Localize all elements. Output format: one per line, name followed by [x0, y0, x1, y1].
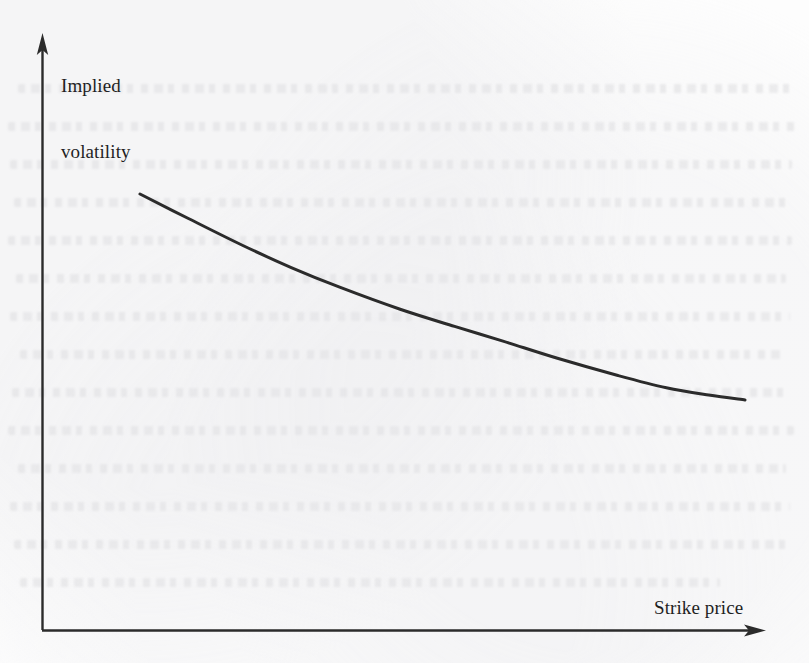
- y-axis-label-line-1: Implied: [61, 75, 131, 97]
- figure-page: Implied volatility Strike price: [0, 0, 809, 663]
- y-axis-label: Implied volatility: [61, 31, 131, 207]
- y-axis-label-line-2: volatility: [61, 141, 131, 163]
- implied-volatility-curve: [140, 194, 745, 400]
- x-axis-label: Strike price: [654, 597, 743, 619]
